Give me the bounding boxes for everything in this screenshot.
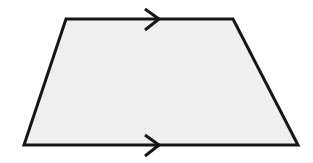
trapezoid-figure <box>0 0 313 163</box>
figure-canvas <box>0 0 313 163</box>
